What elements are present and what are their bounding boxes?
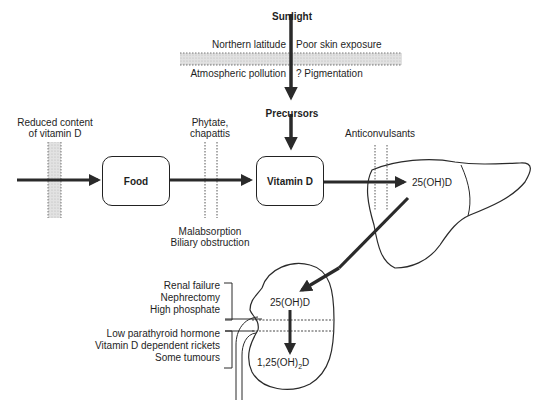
vd-dependent-rickets-label: Vitamin D dependent rickets [60, 340, 220, 352]
biliary-obstruction-label: Biliary obstruction [160, 237, 260, 249]
high-phosphate-label: High phosphate [80, 304, 220, 316]
anticonvulsants-label: Anticonvulsants [345, 128, 415, 140]
some-tumours-label: Some tumours [60, 352, 220, 364]
bracket-group2 [224, 331, 232, 368]
kidney-25ohd-label: 25(OH)D [270, 297, 310, 309]
vitamin-d-label: Vitamin D [267, 176, 313, 187]
low-pth-label: Low parathyroid hormone [60, 328, 220, 340]
food-label: Food [124, 176, 148, 187]
atmospheric-pollution-label: Atmospheric pollution [180, 68, 286, 80]
dietary-barrier-label-2: of vitamin D [10, 128, 100, 140]
sunlight-label: Sunlight [272, 11, 312, 23]
vitamin-d-diagram: Sunlight Northern latitude Poor skin exp… [0, 0, 537, 407]
liver-barrier [375, 145, 387, 210]
poor-skin-exposure-label: Poor skin exposure [296, 39, 382, 51]
vitamin-d-box: Vitamin D [256, 156, 324, 206]
renal-failure-label: Renal failure [80, 280, 220, 292]
precursors-label: Precursors [262, 108, 322, 120]
food-box: Food [102, 156, 170, 206]
bracket-group1 [224, 283, 232, 320]
nephrectomy-label: Nephrectomy [80, 292, 220, 304]
northern-latitude-label: Northern latitude [180, 39, 286, 51]
kidney-calcitriol-label: 1,25(OH)2D [257, 357, 309, 373]
chapattis-label: chapattis [180, 128, 240, 140]
liver-25ohd-label: 25(OH)D [412, 177, 452, 189]
pigmentation-label: ? Pigmentation [296, 68, 363, 80]
liver-to-kidney-arrow [339, 198, 408, 268]
